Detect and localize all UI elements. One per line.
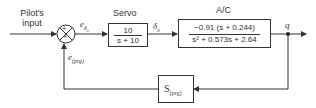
junction-sign-bottom: + xyxy=(63,33,67,40)
error-signal-label: eδc xyxy=(80,19,89,33)
feedback-block-label: S(prg) xyxy=(164,83,181,96)
output-q-label: q xyxy=(285,20,290,30)
feedback-signal-label: e(prg) xyxy=(68,52,84,64)
feedback-block: S(prg) xyxy=(158,75,194,103)
aircraft-block: −0.91 (s + 0.244) s² + 0.573s + 2.64 xyxy=(178,19,271,48)
servo-title: Servo xyxy=(113,8,137,18)
servo-block: 10 s + 10 xyxy=(108,23,148,47)
block-diagram: Pilot's input + + eδc e(prg) Servo 10 s … xyxy=(0,0,316,108)
servo-output-label: δe xyxy=(153,21,160,33)
aircraft-title: A/C xyxy=(216,5,231,15)
aircraft-denominator: s² + 0.573s + 2.64 xyxy=(179,35,270,44)
junction-sign-top: + xyxy=(62,25,66,32)
pilot-input-label: Pilot's input xyxy=(12,8,52,28)
aircraft-numerator: −0.91 (s + 0.244) xyxy=(179,23,270,32)
servo-denominator: s + 10 xyxy=(109,36,147,45)
servo-numerator: 10 xyxy=(109,26,147,35)
